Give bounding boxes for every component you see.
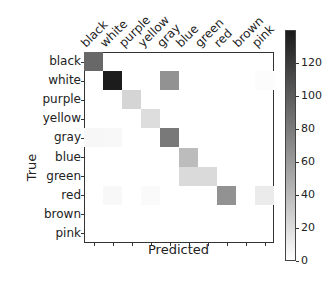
- heatmap-cell: [160, 128, 179, 147]
- colorbar-tick: [296, 63, 299, 64]
- y-tick-label: green: [46, 169, 81, 183]
- x-tick: [227, 243, 228, 246]
- heatmap-cell: [84, 52, 103, 71]
- y-tick-label: pink: [55, 226, 81, 240]
- y-tick-label: brown: [44, 207, 81, 221]
- colorbar-tick: [296, 195, 299, 196]
- heatmap-cell: [84, 128, 103, 147]
- heatmap-plot-area: [84, 52, 274, 243]
- y-tick-label: gray: [54, 130, 81, 144]
- y-tick: [81, 214, 84, 215]
- colorbar-tick-label: 20: [301, 221, 315, 234]
- y-tick: [81, 81, 84, 82]
- y-tick: [81, 100, 84, 101]
- y-tick: [81, 119, 84, 120]
- y-axis-title: True: [24, 154, 39, 182]
- x-axis-title: Predicted: [148, 242, 209, 257]
- y-tick-label: white: [48, 73, 81, 87]
- y-tick-label: blue: [55, 150, 81, 164]
- heatmap-cell: [103, 71, 122, 90]
- y-tick-label: red: [61, 188, 81, 202]
- colorbar-tick-label: 120: [301, 56, 322, 69]
- y-tick-label: yellow: [43, 111, 81, 125]
- y-tick: [81, 138, 84, 139]
- heatmap-cell: [103, 128, 122, 147]
- colorbar-tick: [296, 96, 299, 97]
- heatmap-cell: [122, 90, 141, 109]
- y-tick: [81, 233, 84, 234]
- heatmap-cell: [217, 186, 236, 205]
- colorbar-tick-label: 40: [301, 188, 315, 201]
- x-tick: [113, 243, 114, 246]
- x-tick: [246, 243, 247, 246]
- x-tick: [265, 243, 266, 246]
- heatmap-cell: [179, 148, 198, 167]
- colorbar-tick: [296, 261, 299, 262]
- colorbar-tick-label: 60: [301, 155, 315, 168]
- colorbar-tick-label: 100: [301, 89, 322, 102]
- heatmap-cell: [141, 186, 160, 205]
- heatmap-cell: [255, 186, 274, 205]
- colorbar-tick: [296, 228, 299, 229]
- y-tick: [81, 195, 84, 196]
- heatmap-cell: [179, 167, 198, 186]
- y-tick: [81, 176, 84, 177]
- y-tick: [81, 157, 84, 158]
- colorbar-tick: [296, 129, 299, 130]
- y-tick-label: black: [49, 54, 81, 68]
- heatmap-cell: [160, 71, 179, 90]
- colorbar-tick-label: 0: [301, 254, 308, 267]
- x-tick: [132, 243, 133, 246]
- colorbar-tick: [296, 162, 299, 163]
- heatmap-cell: [141, 109, 160, 128]
- y-tick: [81, 62, 84, 63]
- heatmap-cell: [255, 71, 274, 90]
- heatmap-cell: [198, 167, 217, 186]
- colorbar-tick-label: 80: [301, 122, 315, 135]
- x-tick: [94, 243, 95, 246]
- colorbar: [285, 30, 296, 261]
- y-tick-label: purple: [43, 92, 82, 106]
- heatmap-cell: [103, 186, 122, 205]
